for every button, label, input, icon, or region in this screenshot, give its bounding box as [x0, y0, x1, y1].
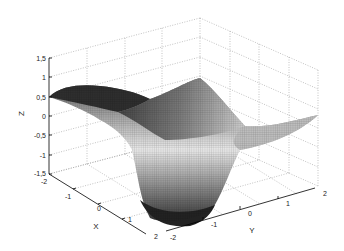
svg-text:1: 1: [42, 74, 46, 81]
svg-text:-2: -2: [170, 234, 176, 241]
y-axis-label: Y: [249, 226, 255, 235]
svg-text:0: 0: [97, 205, 101, 212]
surface-mesh: [49, 78, 318, 226]
svg-text:1: 1: [128, 216, 132, 223]
svg-text:1,5: 1,5: [36, 55, 46, 62]
svg-text:0: 0: [42, 113, 46, 120]
svg-text:0,5: 0,5: [36, 94, 46, 101]
svg-text:0: 0: [248, 210, 252, 217]
svg-text:-1: -1: [40, 152, 46, 159]
svg-text:1: 1: [286, 200, 290, 207]
svg-text:-1: -1: [211, 221, 217, 228]
svg-text:-2: -2: [41, 178, 47, 185]
svg-text:-1: -1: [65, 193, 71, 200]
surface-plot: 1,5 1 0,5 0 -0,5 -1 -1,5 -2 -1 0 1 2 -2 …: [0, 0, 344, 251]
svg-text:2: 2: [154, 233, 158, 240]
x-axis-label: X: [93, 222, 99, 231]
z-axis-label: Z: [17, 111, 26, 116]
svg-text:-0,5: -0,5: [34, 132, 46, 139]
svg-text:-1,5: -1,5: [34, 170, 46, 177]
svg-text:2: 2: [323, 190, 327, 197]
z-tick-labels: 1,5 1 0,5 0 -0,5 -1 -1,5: [34, 55, 46, 177]
